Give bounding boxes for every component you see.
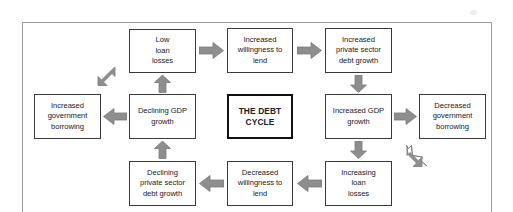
- arrow-gov-borrowing-to-loan-losses: [406, 145, 428, 167]
- arrow-private-debt-to-gdp-growth: [350, 75, 367, 93]
- arrow-willingness-to-private-debt: [297, 42, 322, 59]
- node-the-debt-cycle[interactable]: THE DEBT CYCLE: [227, 94, 293, 139]
- node-label: Decreased willingness to lend: [238, 168, 282, 200]
- node-label: Low loan losses: [152, 35, 173, 67]
- node-increased-private-debt[interactable]: Increased private sector debt growth: [325, 28, 392, 73]
- center-label: THE DEBT CYCLE: [239, 106, 282, 128]
- node-declining-private-debt[interactable]: Declining private sector debt growth: [129, 161, 196, 206]
- diagram-canvas: Low loan losses Increased willingness to…: [0, 0, 513, 212]
- node-decreased-willingness[interactable]: Decreased willingness to lend: [227, 161, 293, 206]
- scan-speck: [470, 10, 477, 15]
- node-increased-willingness[interactable]: Increased willingness to lend: [227, 28, 293, 73]
- node-label: Increasing loan losses: [341, 168, 376, 200]
- figure-frame: Low loan losses Increased willingness to…: [22, 22, 492, 212]
- arrow-gov-borrowing-up-to-low-losses: [94, 66, 116, 88]
- node-label: Increased GDP growth: [333, 106, 384, 127]
- node-decreased-gov-borrowing[interactable]: Decreased government borrowing: [419, 94, 486, 139]
- node-low-loan-losses[interactable]: Low loan losses: [129, 29, 196, 73]
- node-label: Increased private sector debt growth: [336, 35, 381, 67]
- arrow-willingness-down-to-private-decline: [199, 175, 224, 192]
- arrow-private-decline-to-gdp-decline: [154, 141, 171, 159]
- arrow-low-losses-to-willingness: [199, 42, 224, 59]
- node-increasing-loan-losses[interactable]: Increasing loan losses: [325, 161, 392, 206]
- arrow-gdp-growth-to-gov-borrowing: [394, 108, 417, 125]
- node-declining-gdp-growth[interactable]: Declining GDP growth: [129, 94, 196, 139]
- node-label: Increased willingness to lend: [238, 35, 282, 67]
- arrow-gdp-growth-to-loan-losses: [350, 141, 367, 159]
- node-label: Decreased government borrowing: [433, 101, 473, 133]
- node-label: Declining private sector debt growth: [140, 168, 185, 200]
- arrow-loan-losses-to-willingness-down: [297, 175, 322, 192]
- node-label: Declining GDP growth: [138, 106, 187, 127]
- node-label: Increased government borrowing: [48, 101, 88, 133]
- node-increased-gov-borrowing[interactable]: Increased government borrowing: [34, 94, 101, 139]
- node-increased-gdp-growth[interactable]: Increased GDP growth: [325, 94, 392, 139]
- arrow-gdp-decline-to-low-losses: [154, 75, 171, 93]
- arrow-gdp-decline-to-gov-borrowing-up: [103, 108, 127, 125]
